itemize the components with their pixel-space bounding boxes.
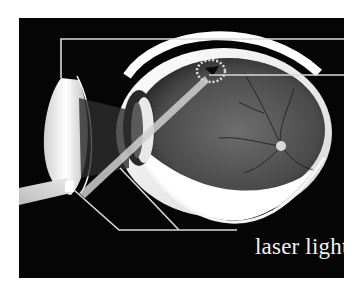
diagram-frame: laser light	[19, 18, 344, 278]
optic-disc	[276, 141, 286, 151]
contact-lens	[44, 76, 129, 195]
label-laser-light: laser light	[255, 235, 344, 258]
